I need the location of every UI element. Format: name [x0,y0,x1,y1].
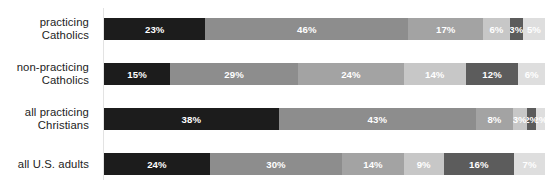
bar-segment-label: 23% [145,24,165,35]
bar-segment-label: 3% [513,114,527,125]
bar-segment: 6% [483,18,509,40]
bar-segment: 8% [476,108,513,130]
bar-segment-label: 29% [224,69,244,80]
bar-segment: 6% [518,63,544,85]
row-label: non-practicing Catholics [0,61,96,86]
bar-segment: 9% [404,153,444,175]
bar-segment-label: 43% [368,114,388,125]
bar-segment: 3% [510,18,523,40]
bar-segment-label: 6% [489,24,503,35]
row-label: all U.S. adults [0,158,96,171]
bar-segment: 30% [210,153,342,175]
chart-row: all U.S. adults 24%30%14%9%16%7% [0,142,555,185]
bar-segment-label: 3% [510,24,523,35]
bar-segment: 29% [170,63,298,85]
bar-segment: 2% [527,108,536,130]
bar-segment: 17% [408,18,483,40]
stacked-bar: 38%43%8%3%2%2% [104,108,545,130]
bar-segment-label: 38% [182,114,202,125]
bar-segment: 16% [444,153,515,175]
bar-segment-label: 17% [436,24,456,35]
row-label: practicing Catholics [0,16,96,41]
bar-segment: 46% [205,18,408,40]
bar-segment-label: 14% [425,69,445,80]
bar-segment-label: 8% [487,114,501,125]
bar-segment-label: 2% [527,114,536,125]
chart-row: non-practicing Catholics 15%29%24%14%12%… [0,52,555,96]
bar-segment-label: 24% [341,69,361,80]
stacked-bar-chart: practicing Catholics 23%46%17%6%3%5% non… [0,0,555,185]
bar-segment: 15% [104,63,170,85]
bar-segment: 38% [104,108,279,130]
bar-segment: 14% [342,153,404,175]
stacked-bar: 24%30%14%9%16%7% [104,153,545,175]
bar-segment: 24% [298,63,404,85]
bar-segment: 14% [404,63,466,85]
bar-segment-label: 30% [266,159,286,170]
bar-segment-label: 24% [147,159,167,170]
stacked-bar: 23%46%17%6%3%5% [104,18,545,40]
bar-segment: 2% [536,108,545,130]
bar-segment-label: 16% [469,159,489,170]
bar-segment: 3% [513,108,527,130]
stacked-bar: 15%29%24%14%12%6% [104,63,545,85]
bar-segment-label: 6% [525,69,539,80]
chart-row: all practicing Christians 38%43%8%3%2%2% [0,97,555,141]
bar-segment-label: 7% [522,159,536,170]
chart-row: practicing Catholics 23%46%17%6%3%5% [0,7,555,51]
row-label: all practicing Christians [0,106,96,131]
bar-segment: 43% [279,108,477,130]
bar-segment-label: 2% [536,114,545,125]
bar-segment-label: 14% [363,159,383,170]
bar-segment: 23% [104,18,205,40]
bar-segment-label: 12% [482,69,502,80]
bar-segment-label: 46% [297,24,317,35]
bar-segment-label: 15% [127,69,147,80]
bar-segment: 12% [466,63,519,85]
bar-segment: 5% [523,18,545,40]
bar-segment-label: 9% [417,159,431,170]
bar-segment-label: 5% [527,24,541,35]
bar-segment: 24% [104,153,210,175]
bar-segment: 7% [514,153,545,175]
